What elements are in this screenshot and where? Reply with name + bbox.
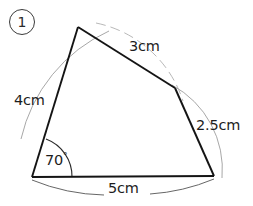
edge-topright-3cm bbox=[78, 27, 175, 88]
item-number-marker: 1 bbox=[9, 9, 35, 35]
label-side-4cm: 4cm bbox=[14, 93, 45, 108]
label-side-5cm: 5cm bbox=[108, 181, 139, 196]
degree-symbol-icon: ° bbox=[63, 151, 68, 161]
label-side-3cm: 3cm bbox=[129, 39, 160, 54]
item-number-text: 1 bbox=[18, 14, 27, 30]
dimension-arc-base-left bbox=[32, 180, 104, 195]
edge-base-5cm bbox=[32, 176, 214, 177]
construction-arc-3cm-dashed bbox=[96, 23, 183, 101]
angle-value-text: 70 bbox=[45, 152, 63, 168]
label-angle-70deg: 70° bbox=[45, 152, 68, 167]
geometry-figure: 1 3cm 4cm 2.5cm 5cm 70° bbox=[0, 0, 253, 206]
label-side-2p5cm: 2.5cm bbox=[196, 118, 240, 133]
construction-arc-4cm bbox=[21, 31, 109, 139]
dimension-arc-base-right bbox=[150, 179, 214, 194]
